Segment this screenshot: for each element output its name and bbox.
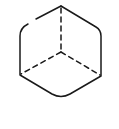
cube-outline-top-left bbox=[36, 6, 61, 19]
cube-diagram bbox=[0, 0, 119, 129]
hidden-edge-right bbox=[61, 52, 100, 75]
hidden-edge-left bbox=[21, 52, 61, 74]
